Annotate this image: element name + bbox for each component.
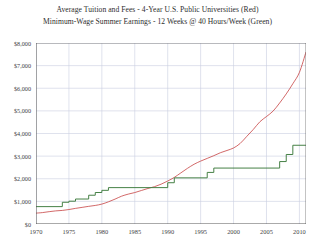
- chart-container: Average Tuition and Fees - 4-Year U.S. P…: [0, 0, 315, 249]
- y-axis-tick-label: $3,000: [1, 153, 31, 160]
- grid-lines: [36, 43, 306, 224]
- chart-title-line-2: Minimum-Wage Summer Earnings - 12 Weeks …: [0, 16, 315, 28]
- y-axis-tick-label: $0: [1, 221, 31, 228]
- plot-area: [36, 43, 306, 224]
- y-axis-tick-label: $7,000: [1, 62, 31, 69]
- data-series-layer: [36, 52, 306, 213]
- x-axis-tick-label: 1975: [52, 228, 86, 235]
- x-axis-tick-label: 1970: [19, 228, 53, 235]
- y-axis-tick-label: $2,000: [1, 175, 31, 182]
- x-axis-tick-label: 1990: [151, 228, 185, 235]
- y-axis-tick-label: $8,000: [1, 40, 31, 47]
- x-axis-tick-label: 1985: [118, 228, 152, 235]
- chart-title-line-1: Average Tuition and Fees - 4-Year U.S. P…: [0, 4, 315, 16]
- x-axis-tick-label: 2010: [282, 228, 315, 235]
- y-axis-tick-label: $6,000: [1, 85, 31, 92]
- y-axis-tick-label: $5,000: [1, 107, 31, 114]
- x-axis-tick-label: 2000: [217, 228, 251, 235]
- x-axis-tick-label: 2005: [249, 228, 283, 235]
- x-axis-tick-label: 1995: [184, 228, 218, 235]
- x-axis-tick-label: 1980: [85, 228, 119, 235]
- chart-plot-svg: [36, 43, 306, 224]
- chart-title: Average Tuition and Fees - 4-Year U.S. P…: [0, 4, 315, 28]
- y-axis-tick-label: $4,000: [1, 130, 31, 137]
- y-axis-tick-label: $1,000: [1, 198, 31, 205]
